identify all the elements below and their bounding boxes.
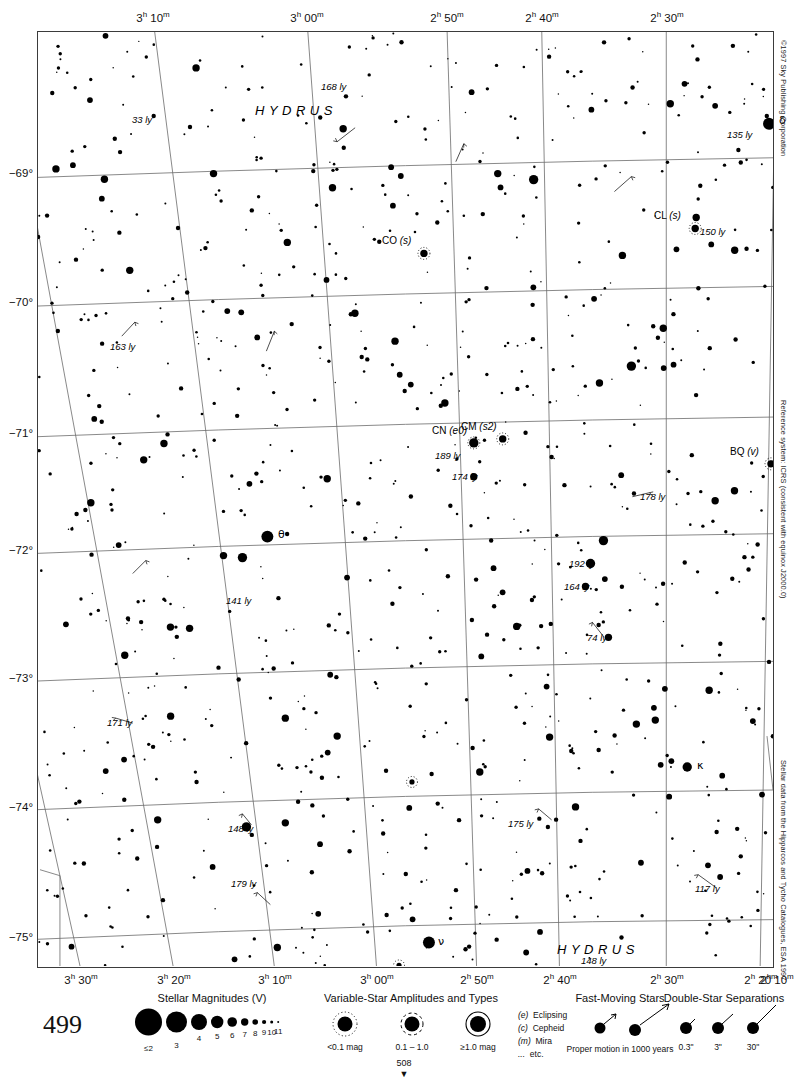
legend-magnitude-label-11: 11 <box>274 1027 282 1036</box>
dec-tick-69: −69° <box>0 167 33 179</box>
dec-tick-75: −75° <box>0 931 33 943</box>
legend-title-fast-moving: Fast-Moving Stars <box>575 992 664 1004</box>
legend-title-doubles: Double-Star Separations <box>664 992 784 1004</box>
ra-tick-bottom-2h30m: 2h 30m <box>650 972 684 986</box>
legend-fast-moving-caption: Proper motion in 1000 years <box>567 1044 674 1054</box>
legend-magnitude-label-3: 3 <box>174 1041 178 1050</box>
legend-variable-type-mira: (m) Mira <box>518 1036 552 1046</box>
ra-tick-bottom-3h30m: 3h 30m <box>64 972 98 986</box>
ra-tick-top-3h10m: 3h 10m <box>136 10 170 24</box>
dec-tick-74: −74° <box>0 801 33 813</box>
legend-magnitude-label-9: 9 <box>262 1028 266 1037</box>
legend-variable-amplitude-1: 0.1 – 1.0 <box>395 1042 428 1052</box>
dec-tick-71: −71° <box>0 427 33 439</box>
legend-magnitude-label-5: 5 <box>215 1032 219 1041</box>
legend-variable-type-etc: ... etc. <box>518 1049 544 1059</box>
reference-system-note: Reference system: ICRS (consistent with … <box>779 400 788 599</box>
page-crop-artifact <box>74 0 98 9</box>
ra-tick-bottom-3h20m: 3h 20m <box>157 972 191 986</box>
legend-variable-amplitude-2: ≥1.0 mag <box>460 1042 495 1052</box>
dec-tick-72: −72° <box>0 544 33 556</box>
legend-title-variables: Variable-Star Amplitudes and Types <box>324 992 498 1004</box>
legend-double-separation-1: 3ʺ <box>714 1042 722 1052</box>
legend-magnitude-label-x2: ≤2 <box>144 1044 153 1053</box>
legend-double-separation-0: 0.3ʺ <box>679 1042 694 1052</box>
ra-tick-bottom-2h10m: 2h 10m <box>760 972 794 986</box>
ra-tick-top-2h30m: 2h 30m <box>650 10 684 24</box>
dec-tick-70: −70° <box>0 296 33 308</box>
legend-magnitude-label-8: 8 <box>253 1029 257 1038</box>
ra-tick-bottom-3h00m: 3h 00m <box>360 972 394 986</box>
legend-magnitude-label-4: 4 <box>197 1034 201 1043</box>
fold-arrow-icon: ▼ <box>400 1070 409 1079</box>
ra-tick-top-2h40m: 2h 40m <box>525 10 559 24</box>
legend-double-separation-2: 30ʺ <box>747 1042 759 1052</box>
legend-magnitude-label-7: 7 <box>242 1030 246 1039</box>
ra-tick-bottom-2h40m: 2h 40m <box>543 972 577 986</box>
ra-tick-top-3h00m: 3h 00m <box>290 10 324 24</box>
copyright-note: ©1997 Sky Publishing Corporation <box>779 40 788 156</box>
dec-tick-73: −73° <box>0 672 33 684</box>
legend-variable-amplitude-0: <0.1 mag <box>327 1042 363 1052</box>
legend-variable-type-cepheid: (c) Cepheid <box>518 1023 564 1033</box>
ra-tick-bottom-3h10m: 3h 10m <box>258 972 292 986</box>
sky-canvas <box>38 32 773 966</box>
legend-title-magnitudes: Stellar Magnitudes (V) <box>158 992 267 1004</box>
star-chart <box>37 31 774 968</box>
ra-tick-top-2h50m: 2h 50m <box>430 10 464 24</box>
legend-variable-type-eclipsing: (e) Eclipsing <box>518 1010 567 1020</box>
page-number: 499 <box>43 1010 82 1040</box>
legend-magnitude-label-6: 6 <box>230 1031 234 1040</box>
data-source-note: Stellar data from the Hipparcos and Tych… <box>779 760 788 981</box>
ra-tick-bottom-2h50m: 2h 50m <box>460 972 494 986</box>
fold-number: 508 <box>396 1058 411 1068</box>
